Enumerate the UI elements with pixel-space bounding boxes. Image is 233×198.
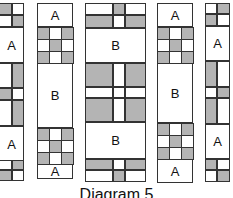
block-label-a: A — [205, 26, 230, 61]
shaded-rect — [12, 63, 24, 88]
plain-square — [205, 3, 217, 14]
block-label-a: A — [157, 159, 193, 183]
plain-rect — [125, 170, 146, 182]
block-label-b: B — [37, 63, 73, 128]
plain-rect — [113, 98, 125, 122]
block-label-b: B — [157, 63, 193, 123]
shaded-square — [205, 159, 217, 170]
block-label-b: B — [85, 28, 146, 63]
shaded-square — [12, 15, 24, 27]
plain-square — [113, 87, 125, 98]
plain-square — [205, 170, 217, 182]
shaded-rect — [125, 15, 146, 28]
plain-rect — [217, 61, 230, 87]
plain-square — [12, 88, 24, 100]
shaded-rect — [205, 98, 217, 124]
block-label-a: A — [157, 3, 193, 27]
shaded-square — [113, 3, 125, 15]
shaded-rect — [85, 98, 113, 122]
plain-rect — [85, 3, 113, 15]
shaded-square — [217, 170, 230, 182]
plain-rect — [113, 63, 125, 87]
plain-square — [217, 159, 230, 170]
block-label-a: A — [0, 27, 24, 63]
shaded-square — [217, 87, 230, 98]
plain-rect — [125, 3, 146, 15]
block-label-a: A — [205, 124, 230, 159]
block-label-a: A — [37, 3, 73, 27]
block-label-a: A — [0, 126, 24, 162]
shaded-rect — [125, 63, 146, 87]
shaded-rect — [85, 159, 113, 170]
shaded-square — [0, 3, 12, 15]
shaded-square — [0, 88, 12, 100]
plain-square — [217, 14, 230, 26]
figure-caption: Diagram 5 — [0, 186, 233, 198]
shaded-rect — [125, 98, 146, 122]
plain-square — [113, 15, 125, 28]
plain-square — [113, 159, 125, 170]
plain-square — [12, 3, 24, 15]
shaded-rect — [205, 61, 217, 87]
shaded-rect — [85, 15, 113, 28]
shaded-square — [217, 3, 230, 14]
shaded-square — [12, 160, 24, 170]
shaded-rect — [12, 100, 24, 126]
shaded-rect — [125, 159, 146, 170]
plain-rect — [125, 87, 146, 98]
plain-square — [12, 170, 24, 181]
plain-rect — [85, 87, 113, 98]
plain-rect — [0, 63, 12, 88]
plain-rect — [0, 100, 12, 126]
plain-square — [0, 15, 12, 27]
plain-square — [205, 87, 217, 98]
block-label-b: B — [85, 122, 146, 159]
plain-rect — [217, 98, 230, 124]
plain-rect — [85, 170, 113, 182]
block-label-a: A — [37, 164, 73, 179]
shaded-square — [0, 170, 12, 181]
shaded-rect — [85, 63, 113, 87]
shaded-square — [113, 170, 125, 182]
plain-square — [0, 160, 12, 170]
shaded-square — [205, 14, 217, 26]
